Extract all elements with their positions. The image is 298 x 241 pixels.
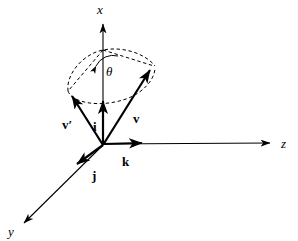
- vector-v: [103, 70, 150, 145]
- basis-vector-j: [77, 145, 103, 164]
- axis-group: [24, 24, 270, 223]
- y-axis-label: y: [6, 224, 14, 239]
- vector-group: [72, 70, 150, 145]
- basis-vector-j-label: j: [91, 168, 96, 183]
- vector-diagram: x y z i j k v v′ θ: [0, 0, 298, 241]
- basis-vector-k-label: k: [122, 154, 130, 169]
- cone-edge-left: [69, 50, 103, 90]
- y-axis-line: [24, 145, 103, 223]
- basis-vector-k: [103, 143, 142, 144]
- z-axis-label: z: [280, 136, 286, 151]
- theta-label: θ: [106, 64, 113, 79]
- vector-v-label: v: [133, 111, 140, 126]
- label-group: x y z i j k v v′ θ: [6, 2, 286, 239]
- vector-v-prime-label: v′: [62, 117, 72, 132]
- x-axis-label: x: [96, 2, 103, 17]
- vector-v-prime: [72, 96, 103, 145]
- basis-vector-i-label: i: [93, 119, 97, 134]
